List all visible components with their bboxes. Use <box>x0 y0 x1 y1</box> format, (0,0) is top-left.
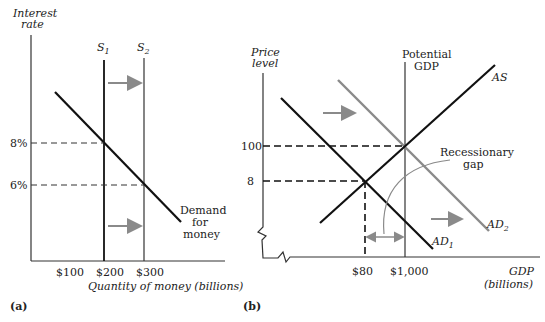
gap-pointer-curve <box>384 160 450 234</box>
panel-b-label: (b) <box>243 300 261 313</box>
panel-b: Price level Potential GDP AD2 AD1 AS Rec… <box>241 46 540 313</box>
ad1-curve <box>281 98 433 249</box>
x-axis-label-a: Quantity of money (billions) <box>88 280 243 293</box>
y-axis-label-a-2: rate <box>21 18 44 31</box>
as-label: AS <box>491 71 508 84</box>
panel-a: Interest rate S1 S2 Demand for money 8% … <box>10 7 243 313</box>
demand-label-3: money <box>183 228 221 241</box>
y-tick-8: 8 <box>247 175 254 188</box>
x-tick-1000: $1,000 <box>390 265 429 278</box>
x-tick-100: $100 <box>56 266 84 279</box>
y-tick-100: 100 <box>241 140 262 153</box>
y-tick-6pct: 6% <box>10 179 27 192</box>
y-tick-8pct: 8% <box>10 137 27 150</box>
x-tick-300: $300 <box>136 266 164 279</box>
x-axis-label-b: GDP <box>509 265 535 278</box>
gap-label-2: gap <box>463 158 484 171</box>
ad1-label: AD1 <box>431 235 454 250</box>
s2-label: S2 <box>137 41 150 56</box>
economics-diagram: Interest rate S1 S2 Demand for money 8% … <box>0 0 545 322</box>
potential-label-2: GDP <box>414 60 440 73</box>
x-tick-80: $80 <box>352 265 373 278</box>
y-axis-label-b-2: level <box>252 57 279 70</box>
demand-curve <box>55 92 181 222</box>
axes-b-with-break <box>258 73 540 262</box>
s1-label: S1 <box>97 41 110 56</box>
panel-a-label: (a) <box>10 300 28 313</box>
ad2-label: AD2 <box>486 218 509 233</box>
x-axis-label-b-2: (billions) <box>484 278 533 291</box>
x-tick-200: $200 <box>96 266 124 279</box>
